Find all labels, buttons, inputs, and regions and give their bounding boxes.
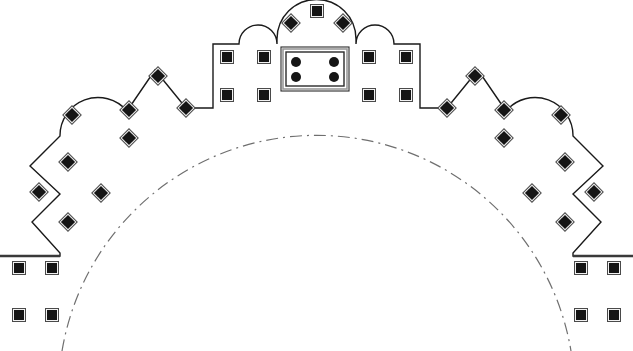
pillar-marker	[363, 89, 376, 102]
pillar-marker	[329, 57, 339, 67]
pillar-marker	[291, 72, 301, 82]
pillar-marker	[400, 51, 413, 64]
pillar-marker	[221, 89, 234, 102]
pillar-marker	[608, 262, 621, 275]
pillar-marker	[311, 5, 324, 18]
pillar-marker	[258, 89, 271, 102]
pillar-marker	[258, 51, 271, 64]
pillar-marker	[221, 51, 234, 64]
plan-drawing	[0, 0, 633, 351]
pillar-marker	[363, 51, 376, 64]
pillar-marker	[13, 309, 26, 322]
pillar-marker	[608, 309, 621, 322]
pillar-marker	[575, 309, 588, 322]
pillar-marker	[329, 72, 339, 82]
pillar-marker	[400, 89, 413, 102]
pillar-marker	[13, 262, 26, 275]
pillar-marker	[46, 309, 59, 322]
pillar-marker	[575, 262, 588, 275]
pillar-marker	[291, 57, 301, 67]
pillar-marker	[46, 262, 59, 275]
architectural-plan-canvas	[0, 0, 633, 351]
